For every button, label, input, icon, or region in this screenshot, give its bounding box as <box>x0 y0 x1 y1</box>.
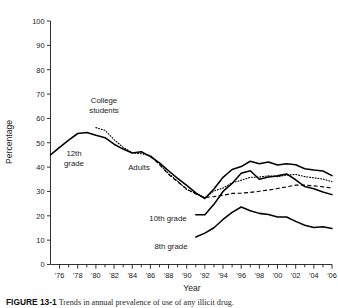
figure-container: '76'78'80'82'84'86'88'90'92'94'96'98'00'… <box>0 0 338 308</box>
x-tick-label: '90 <box>182 271 192 280</box>
y-tick-label: 30 <box>36 187 44 196</box>
y-tick-label: 100 <box>32 17 44 26</box>
x-axis-title: Year <box>183 283 201 293</box>
x-tick-label: '00 <box>273 271 283 280</box>
annotation-12th-grade-line2: grade <box>64 159 84 168</box>
x-tick-label: '80 <box>91 271 101 280</box>
y-tick-label: 90 <box>36 41 44 50</box>
x-tick-label: '04 <box>309 271 319 280</box>
series-line-12th-grade <box>51 133 333 199</box>
y-tick-label: 60 <box>36 114 44 123</box>
x-tick-label: '88 <box>164 271 174 280</box>
annotation-adults: Adults <box>128 163 150 172</box>
x-axis-ticks <box>60 265 332 269</box>
x-tick-label: '98 <box>255 271 265 280</box>
line-chart: '76'78'80'82'84'86'88'90'92'94'96'98'00'… <box>0 0 338 308</box>
y-tick-label: 10 <box>36 236 44 245</box>
x-tick-label: '82 <box>109 271 119 280</box>
y-axis-ticks <box>47 21 51 265</box>
x-tick-label: '92 <box>200 271 210 280</box>
series-line-8th-grade <box>196 207 332 237</box>
y-tick-label: 40 <box>36 163 44 172</box>
y-axis-tick-labels: 0102030405060708090100 <box>32 17 44 269</box>
annotation-8th-grade: 8th grade <box>155 242 188 251</box>
x-tick-label: '94 <box>218 271 228 280</box>
x-tick-label: '86 <box>146 271 156 280</box>
y-tick-label: 0 <box>40 260 44 269</box>
y-tick-label: 70 <box>36 90 44 99</box>
x-tick-label: '78 <box>73 271 83 280</box>
annotation-college-students-line2: students <box>89 106 119 115</box>
annotation-12th-grade-line1: 12th <box>66 149 81 158</box>
y-tick-label: 50 <box>36 139 44 148</box>
figure-caption: FIGURE 13-1 Trends in annual prevalence … <box>6 297 336 307</box>
figure-caption-text: Trends in annual prevalence of use of an… <box>59 298 234 307</box>
annotation-10th-grade: 10th grade <box>149 214 186 223</box>
x-axis-tick-labels: '76'78'80'82'84'86'88'90'92'94'96'98'00'… <box>55 271 337 280</box>
series-layer <box>51 128 333 237</box>
annotation-college-students-line1: College <box>91 96 117 105</box>
y-tick-label: 80 <box>36 66 44 75</box>
y-tick-label: 20 <box>36 212 44 221</box>
figure-caption-label: FIGURE 13-1 <box>6 297 57 307</box>
x-tick-label: '76 <box>55 271 65 280</box>
x-tick-label: '02 <box>291 271 301 280</box>
x-tick-label: '06 <box>327 271 337 280</box>
series-line-10th-grade <box>196 171 332 215</box>
x-tick-label: '96 <box>236 271 246 280</box>
x-tick-label: '84 <box>127 271 137 280</box>
y-axis-title: Percentage <box>4 120 14 164</box>
